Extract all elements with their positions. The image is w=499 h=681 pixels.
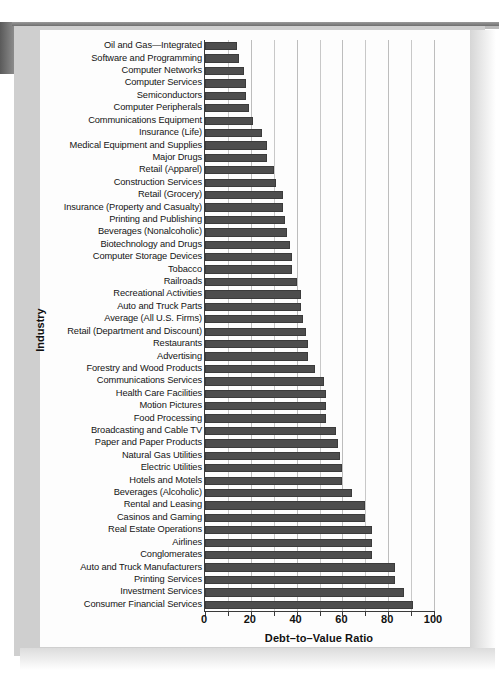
- x-tick-label: 100: [424, 613, 442, 625]
- bar-row: Oil and Gas—Integrated: [205, 42, 434, 50]
- category-label: Auto and Truck Parts: [117, 302, 202, 311]
- category-label: Natural Gas Utilities: [122, 451, 202, 460]
- category-label: Forestry and Wood Products: [86, 364, 202, 373]
- bar-row: Computer Peripherals: [205, 104, 434, 112]
- bar-row: Retail (Grocery): [205, 191, 434, 199]
- bar-row: Communications Equipment: [205, 117, 434, 125]
- bar-row: Tobacco: [205, 265, 434, 273]
- bar-series: Oil and Gas—IntegratedSoftware and Progr…: [205, 40, 434, 611]
- bar-row: Insurance (Life): [205, 129, 434, 137]
- bar: [205, 390, 326, 398]
- bar-row: Real Estate Operations: [205, 526, 434, 534]
- bar-row: Biotechnology and Drugs: [205, 241, 434, 249]
- bar-row: Health Care Facilities: [205, 390, 434, 398]
- bar-row: Railroads: [205, 278, 434, 286]
- category-label: Auto and Truck Manufacturers: [80, 563, 202, 572]
- bar-row: Rental and Leasing: [205, 501, 434, 509]
- page-shadow-bottom: [20, 648, 495, 670]
- bar-row: Retail (Department and Discount): [205, 328, 434, 336]
- bar: [205, 303, 301, 311]
- bar-row: Conglomerates: [205, 551, 434, 559]
- bar: [205, 104, 249, 112]
- bar-row: Recreational Activities: [205, 290, 434, 298]
- category-label: Real Estate Operations: [108, 526, 202, 535]
- y-axis-title: Industry: [34, 308, 46, 351]
- bar: [205, 179, 276, 187]
- category-label: Software and Programming: [91, 54, 202, 63]
- bar-row: Casinos and Gaming: [205, 514, 434, 522]
- category-label: Beverages (Nonalcoholic): [98, 228, 202, 237]
- category-label: Medical Equipment and Supplies: [70, 141, 202, 150]
- category-label: Communications Services: [97, 377, 202, 386]
- bar-row: Beverages (Alcoholic): [205, 489, 434, 497]
- bar: [205, 42, 237, 50]
- bar: [205, 452, 340, 460]
- category-label: Paper and Paper Products: [95, 439, 202, 448]
- category-label: Computer Peripherals: [114, 104, 202, 113]
- category-label: Printing Services: [134, 575, 202, 584]
- category-label: Insurance (Life): [139, 128, 202, 137]
- bar: [205, 92, 246, 100]
- bar: [205, 141, 267, 149]
- category-label: Restaurants: [153, 339, 202, 348]
- bar: [205, 253, 292, 261]
- bar: [205, 191, 283, 199]
- bar: [205, 588, 404, 596]
- category-label: Biotechnology and Drugs: [100, 240, 202, 249]
- category-label: Tobacco: [168, 265, 202, 274]
- bar: [205, 464, 342, 472]
- bar: [205, 576, 395, 584]
- bar: [205, 129, 262, 137]
- bar: [205, 117, 253, 125]
- bar: [205, 203, 283, 211]
- category-label: Advertising: [157, 352, 202, 361]
- axis-tick: [274, 611, 275, 616]
- category-label: Casinos and Gaming: [117, 513, 202, 522]
- bar-row: Electric Utilities: [205, 464, 434, 472]
- category-label: Retail (Department and Discount): [67, 327, 202, 336]
- bar-chart-figure: Industry Oil and Gas—IntegratedSoftware …: [40, 30, 470, 647]
- gridline: [434, 40, 435, 611]
- axis-tick: [320, 611, 321, 616]
- category-label: Investment Services: [120, 588, 202, 597]
- category-label: Health Care Facilities: [116, 389, 202, 398]
- bar-row: Paper and Paper Products: [205, 439, 434, 447]
- bar-row: Motion Pictures: [205, 402, 434, 410]
- category-label: Average (All U.S. Firms): [104, 315, 202, 324]
- bar: [205, 228, 287, 236]
- bar-row: Consumer Financial Services: [205, 601, 434, 609]
- bar: [205, 216, 285, 224]
- x-tick-label: 20: [244, 613, 256, 625]
- x-axis-title: Debt–to–Value Ratio: [204, 632, 434, 644]
- bar-row: Semiconductors: [205, 92, 434, 100]
- category-label: Semiconductors: [137, 91, 202, 100]
- category-label: Broadcasting and Cable TV: [91, 426, 202, 435]
- bar: [205, 79, 246, 87]
- category-label: Printing and Publishing: [109, 215, 202, 224]
- category-label: Computer Storage Devices: [93, 253, 202, 262]
- bar-row: Insurance (Property and Casualty): [205, 203, 434, 211]
- bar-row: Auto and Truck Parts: [205, 303, 434, 311]
- category-label: Hotels and Motels: [129, 476, 202, 485]
- bar: [205, 154, 267, 162]
- bar-row: Food Processing: [205, 414, 434, 422]
- bar: [205, 489, 352, 497]
- bar-row: Investment Services: [205, 588, 434, 596]
- bar-row: Medical Equipment and Supplies: [205, 141, 434, 149]
- axis-tick: [411, 611, 412, 616]
- bar: [205, 514, 365, 522]
- bar-row: Hotels and Motels: [205, 477, 434, 485]
- bar: [205, 477, 342, 485]
- bar-row: Software and Programming: [205, 54, 434, 62]
- bar: [205, 241, 290, 249]
- bar-row: Computer Networks: [205, 67, 434, 75]
- bar: [205, 328, 306, 336]
- category-label: Consumer Financial Services: [84, 600, 202, 609]
- bar-row: Computer Storage Devices: [205, 253, 434, 261]
- category-label: Beverages (Alcoholic): [114, 488, 202, 497]
- bar: [205, 67, 244, 75]
- bar: [205, 166, 274, 174]
- category-label: Recreational Activities: [113, 290, 202, 299]
- bar: [205, 551, 372, 559]
- bar-row: Airlines: [205, 539, 434, 547]
